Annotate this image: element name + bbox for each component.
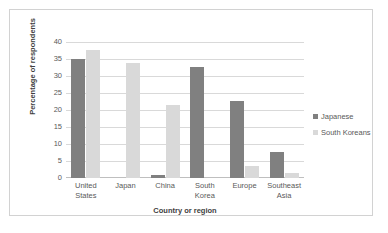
x-axis-tick-label-line: United xyxy=(66,181,106,191)
legend-label: Japanese xyxy=(321,113,354,121)
bar-group xyxy=(145,42,185,178)
bar xyxy=(86,50,100,178)
bar xyxy=(245,166,259,178)
x-axis-tick-label-line: South xyxy=(185,181,225,191)
bar xyxy=(166,105,180,178)
y-axis-tick-label: 30 xyxy=(40,72,62,80)
y-axis-tick-label: 0 xyxy=(40,174,62,182)
bar xyxy=(270,152,284,178)
bar xyxy=(190,67,204,178)
y-axis-tick-label: 15 xyxy=(40,123,62,131)
bar-group xyxy=(106,42,146,178)
x-axis-tick-label-line: Europe xyxy=(225,181,265,191)
y-axis-tick-label: 35 xyxy=(40,55,62,63)
bar-group xyxy=(225,42,265,178)
legend-swatch-icon xyxy=(313,114,318,119)
bar xyxy=(230,101,244,178)
legend-swatch-icon xyxy=(313,130,318,135)
legend-item[interactable]: South Koreans xyxy=(313,129,383,137)
bar xyxy=(71,59,85,178)
bar xyxy=(285,173,299,178)
y-axis-tick-label: 20 xyxy=(40,106,62,114)
x-axis-tick-label: SouthKorea xyxy=(185,181,225,200)
x-axis-tick-label: China xyxy=(145,181,185,191)
legend-label: South Koreans xyxy=(321,129,371,137)
bar-group xyxy=(264,42,304,178)
plot-area xyxy=(66,42,304,178)
x-axis-tick-label-line: Korea xyxy=(185,191,225,201)
x-axis-tick-label-line: States xyxy=(66,191,106,201)
y-axis-tick-label: 40 xyxy=(40,38,62,46)
bar-group xyxy=(66,42,106,178)
x-axis-tick-label-line: Southeast xyxy=(264,181,304,191)
bars-layer xyxy=(66,42,304,178)
x-axis-tick-label-line: Asia xyxy=(264,191,304,201)
y-axis-tick-labels: 4035302520151050 xyxy=(38,42,62,178)
x-axis-tick-label-line: Japan xyxy=(106,181,146,191)
x-axis-tick-label: SoutheastAsia xyxy=(264,181,304,200)
chart-container: Percentage of respondents 40353025201510… xyxy=(9,9,373,216)
x-axis-tick-label: Europe xyxy=(225,181,265,191)
bar xyxy=(151,175,165,178)
bar-group xyxy=(185,42,225,178)
y-axis-tick-label: 25 xyxy=(40,89,62,97)
y-axis-title: Percentage of respondents xyxy=(28,1,37,133)
bar xyxy=(126,63,140,178)
chart-legend: JapaneseSouth Koreans xyxy=(313,113,383,144)
legend-item[interactable]: Japanese xyxy=(313,113,383,121)
y-axis-tick-label: 5 xyxy=(40,157,62,165)
x-axis-tick-label: UnitedStates xyxy=(66,181,106,200)
x-axis-tick-label: Japan xyxy=(106,181,146,191)
x-axis-title: Country or region xyxy=(66,206,304,215)
x-axis-tick-labels: UnitedStatesJapanChinaSouthKoreaEuropeSo… xyxy=(66,181,304,207)
y-axis-tick-label: 10 xyxy=(40,140,62,148)
x-axis-tick-label-line: China xyxy=(145,181,185,191)
